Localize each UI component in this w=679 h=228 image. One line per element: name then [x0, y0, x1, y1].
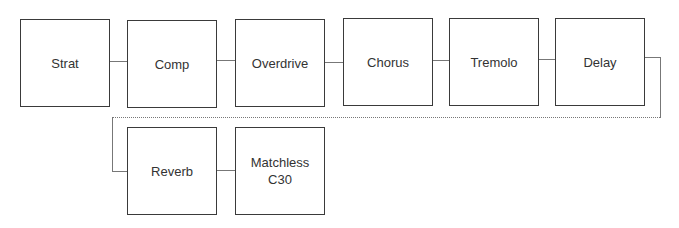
edge-into-reverb [112, 171, 127, 172]
node-label: Overdrive [252, 55, 308, 72]
edge-chorus-tremolo [433, 60, 449, 61]
node-label: Comp [155, 56, 190, 73]
node-comp: Comp [127, 20, 217, 108]
node-tremolo: Tremolo [449, 18, 539, 106]
node-strat: Strat [20, 19, 110, 107]
node-label: Strat [51, 55, 78, 72]
edge-reverb-matchless [217, 170, 235, 171]
edge-comp-overdrive [217, 60, 235, 61]
edge-strat-comp [110, 61, 127, 62]
node-label: Tremolo [470, 54, 517, 71]
node-matchless: Matchless C30 [235, 127, 325, 215]
node-label: Matchless C30 [251, 154, 310, 188]
edge-delay-out [645, 57, 660, 58]
node-overdrive: Overdrive [235, 19, 325, 107]
node-label: Chorus [367, 54, 409, 71]
node-label: Delay [583, 54, 616, 71]
edge-overdrive-chorus [325, 62, 343, 63]
node-label: Reverb [151, 163, 193, 180]
edge-delay-down [660, 57, 661, 118]
edge-return-line [112, 117, 660, 118]
node-delay: Delay [555, 18, 645, 106]
edge-tremolo-delay [539, 59, 555, 60]
edge-return-down [112, 117, 113, 171]
node-chorus: Chorus [343, 18, 433, 106]
node-reverb: Reverb [127, 127, 217, 215]
